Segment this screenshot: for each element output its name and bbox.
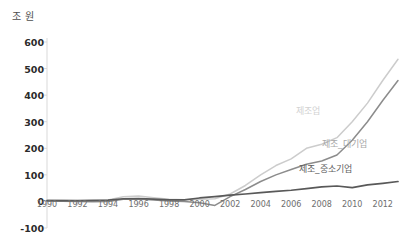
x-axis-tick-2004: 2004 — [250, 200, 270, 209]
x-axis-tick-2010: 2010 — [342, 200, 362, 209]
series-label-sme: 제조_중소기업 — [299, 162, 352, 175]
x-axis-tick-2008: 2008 — [312, 200, 332, 209]
x-axis-tick-1998: 1998 — [159, 200, 179, 209]
x-axis-tick-1996: 1996 — [128, 200, 148, 209]
x-axis-tick-2000: 2000 — [189, 200, 209, 209]
series-line-0 — [47, 59, 398, 200]
x-axis-tick-2006: 2006 — [281, 200, 301, 209]
series-label-manufacturing: 제조업 — [296, 104, 320, 117]
x-axis-tick-2002: 2002 — [220, 200, 240, 209]
series-line-2 — [47, 182, 398, 201]
x-axis-tick-1992: 1992 — [67, 200, 87, 209]
series-label-large-enterprise: 제조_대기업 — [322, 137, 367, 150]
x-axis-tick-1994: 1994 — [98, 200, 118, 209]
chart-container: 조 원 6005004003002001000-100 199019921994… — [0, 0, 404, 244]
x-axis-tick-2012: 2012 — [373, 200, 393, 209]
x-axis-tick-1990: 1990 — [37, 200, 57, 209]
